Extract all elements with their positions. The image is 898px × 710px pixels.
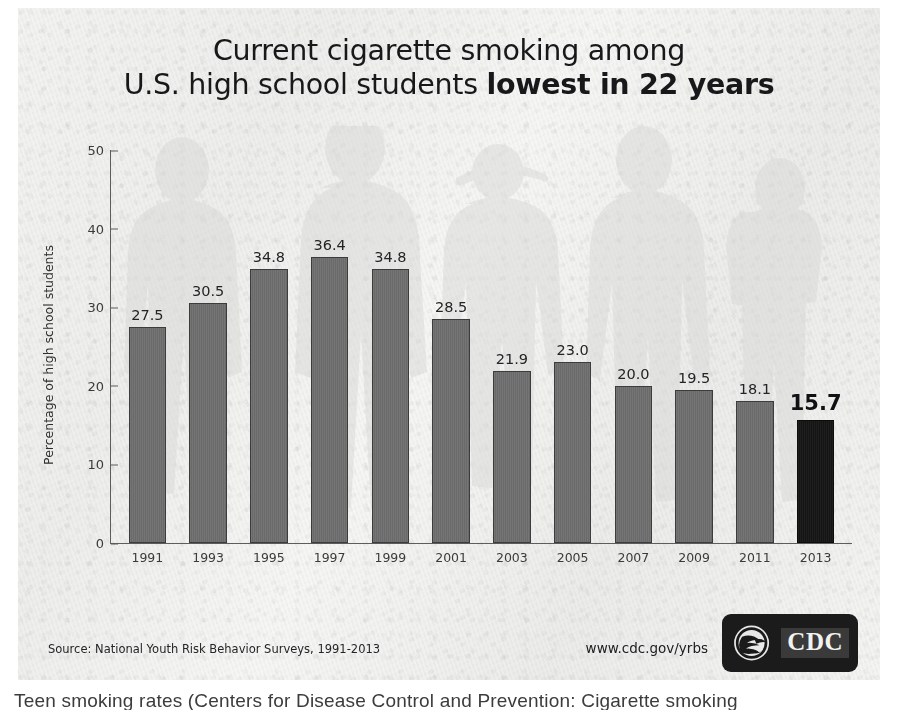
cdc-wordmark: CDC (781, 628, 849, 657)
y-axis-tick-label: 20 (87, 378, 104, 393)
x-axis-tick-label: 2013 (800, 550, 832, 565)
x-axis-tick-label: 1993 (192, 550, 224, 565)
bar-value-label: 30.5 (192, 283, 224, 299)
y-axis-tick: 40 (87, 221, 111, 236)
bar-value-label: 20.0 (617, 366, 649, 382)
bar[interactable] (797, 420, 835, 543)
source-note: Source: National Youth Risk Behavior Sur… (48, 642, 380, 656)
bar-value-label: 28.5 (435, 299, 467, 315)
bar-value-label: 36.4 (313, 237, 345, 253)
y-axis-tick: 0 (96, 536, 111, 551)
bar-group[interactable]: 28.52001 (421, 150, 482, 543)
bar-group[interactable]: 27.51991 (117, 150, 178, 543)
y-axis-tick: 20 (87, 378, 111, 393)
cdc-logo: CDC (722, 614, 858, 672)
y-axis-tick: 50 (87, 143, 111, 158)
bar-group[interactable]: 21.92003 (482, 150, 543, 543)
title-line-1: Current cigarette smoking among (18, 34, 880, 68)
bar-value-label: 27.5 (131, 307, 163, 323)
x-axis-tick-label: 1991 (131, 550, 163, 565)
bar-group[interactable]: 36.41997 (299, 150, 360, 543)
hhs-eagle-icon (731, 619, 775, 667)
infographic-poster: Current cigarette smoking among U.S. hig… (18, 8, 880, 680)
bar[interactable] (432, 319, 470, 543)
image-caption: Teen smoking rates (Centers for Disease … (14, 690, 894, 710)
x-axis-tick-label: 2001 (435, 550, 467, 565)
page-title: Current cigarette smoking among U.S. hig… (18, 34, 880, 102)
website-url[interactable]: www.cdc.gov/yrbs (586, 640, 708, 656)
x-axis-tick-label: 1999 (374, 550, 406, 565)
bar-group[interactable]: 34.81995 (239, 150, 300, 543)
bars-container: 27.5199130.5199334.8199536.4199734.81999… (111, 150, 852, 543)
title-line-2-emphasis: lowest in 22 years (486, 68, 774, 101)
bar-group[interactable]: 18.12011 (725, 150, 786, 543)
title-line-2: U.S. high school students lowest in 22 y… (18, 68, 880, 102)
bar-value-label: 15.7 (790, 391, 842, 415)
bar-group[interactable]: 19.52009 (664, 150, 725, 543)
bar-value-label: 19.5 (678, 370, 710, 386)
y-axis-tick-label: 40 (87, 221, 104, 236)
y-axis-tick-label: 30 (87, 300, 104, 315)
y-axis-tick-label: 50 (87, 143, 104, 158)
x-axis-tick-label: 2009 (678, 550, 710, 565)
bar-value-label: 34.8 (253, 249, 285, 265)
bar[interactable] (129, 327, 167, 543)
plot-area: 01020304050 27.5199130.5199334.8199536.4… (110, 150, 852, 544)
bar-value-label: 23.0 (556, 342, 588, 358)
y-axis-tick: 30 (87, 300, 111, 315)
y-axis-tick-label: 0 (96, 536, 104, 551)
y-axis-tick-mark (111, 543, 118, 544)
bar[interactable] (736, 401, 774, 543)
bar[interactable] (311, 257, 349, 543)
x-axis-tick-label: 1997 (314, 550, 346, 565)
bar-value-label: 21.9 (496, 351, 528, 367)
title-line-2-normal: U.S. high school students (124, 68, 487, 101)
bar-group[interactable]: 30.51993 (178, 150, 239, 543)
bar-group[interactable]: 23.02005 (542, 150, 603, 543)
bar[interactable] (675, 390, 713, 543)
bar-group[interactable]: 34.81999 (360, 150, 421, 543)
bar-chart: Percentage of high school students 01020… (74, 140, 856, 570)
bar-value-label: 18.1 (739, 381, 771, 397)
y-axis-label: Percentage of high school students (41, 245, 56, 465)
bar[interactable] (554, 362, 592, 543)
x-axis-tick-label: 2007 (617, 550, 649, 565)
bar-group[interactable]: 20.02007 (603, 150, 664, 543)
bar[interactable] (250, 269, 288, 543)
x-axis-tick-label: 1995 (253, 550, 285, 565)
y-axis-tick-label: 10 (87, 457, 104, 472)
y-axis-tick: 10 (87, 457, 111, 472)
x-axis-tick-label: 2005 (557, 550, 589, 565)
bar[interactable] (615, 386, 653, 543)
x-axis-tick-label: 2011 (739, 550, 771, 565)
bar-value-label: 34.8 (374, 249, 406, 265)
bar-group[interactable]: 15.72013 (785, 150, 846, 543)
x-axis-tick-label: 2003 (496, 550, 528, 565)
bar[interactable] (189, 303, 227, 543)
bar[interactable] (372, 269, 410, 543)
bar[interactable] (493, 371, 531, 543)
